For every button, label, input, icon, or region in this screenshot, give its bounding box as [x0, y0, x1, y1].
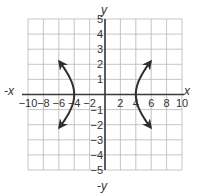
y-tick-label: −1 — [90, 104, 103, 116]
x-axis-label: x — [183, 84, 191, 98]
y-axis-label: y — [100, 3, 108, 17]
y-tick-label: 4 — [97, 28, 103, 40]
y-tick-label: −4 — [90, 149, 103, 161]
y-axis-neg-label: -y — [97, 179, 108, 193]
y-tick-label: 2 — [97, 58, 103, 70]
x-axis-neg-label: -x — [4, 84, 15, 98]
x-tick-label: 2 — [117, 97, 123, 109]
y-tick-label: 1 — [97, 73, 103, 85]
x-tick-label: −10 — [19, 97, 38, 109]
hyperbola-chart: −10−8−6−4−2246810−5−4−3−2−112345 y -y x … — [0, 0, 200, 196]
y-tick-label: −2 — [90, 119, 103, 131]
x-tick-label: 8 — [164, 97, 170, 109]
y-tick-label: −3 — [90, 134, 103, 146]
y-tick-label: −5 — [90, 164, 103, 176]
axes — [22, 19, 184, 170]
x-tick-label: 6 — [148, 97, 154, 109]
x-tick-label: −6 — [53, 97, 66, 109]
x-tick-label: 10 — [176, 97, 188, 109]
x-tick-label: −8 — [37, 97, 50, 109]
y-tick-label: 3 — [97, 43, 103, 55]
